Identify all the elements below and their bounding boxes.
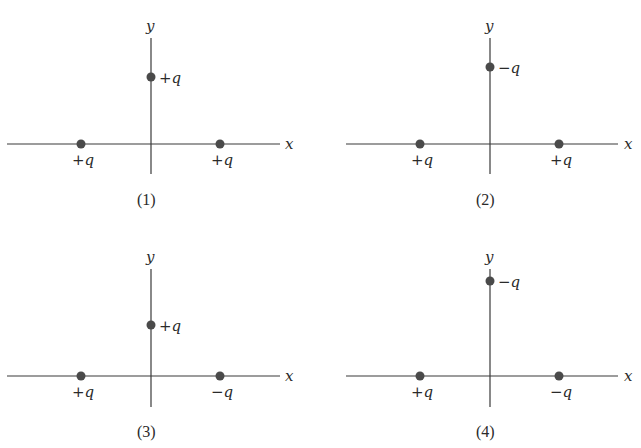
charge-top <box>147 321 156 330</box>
charge-right-label: −q <box>211 383 233 401</box>
charge-left <box>77 140 86 149</box>
panel-1: y x +q +q +q (1) <box>7 17 294 209</box>
charge-right-label: +q <box>211 151 233 169</box>
panel-caption: (4) <box>476 423 495 441</box>
charge-top-label: −q <box>498 273 520 291</box>
y-axis-label: y <box>145 17 155 35</box>
charge-right <box>216 372 225 381</box>
charge-left-label: +q <box>72 151 94 169</box>
charge-right <box>216 140 225 149</box>
charge-left-label: +q <box>72 383 94 401</box>
x-axis-label: x <box>285 135 294 153</box>
charge-right-label: −q <box>550 383 572 401</box>
charge-top-label: −q <box>498 59 520 77</box>
panel-4: y x −q +q −q (4) <box>346 248 633 441</box>
y-axis-label: y <box>484 248 494 266</box>
y-axis-label: y <box>484 17 494 35</box>
charge-configuration-figure: y x +q +q +q (1) y x −q +q +q (2) y x +q… <box>0 0 641 448</box>
charge-left-label: +q <box>411 383 433 401</box>
charge-left <box>416 140 425 149</box>
y-axis-label: y <box>145 248 155 266</box>
panel-3: y x +q +q −q (3) <box>7 248 294 441</box>
charge-top <box>486 277 495 286</box>
panel-caption: (3) <box>137 423 156 441</box>
charge-right <box>555 372 564 381</box>
panel-caption: (1) <box>137 191 156 209</box>
x-axis-label: x <box>285 367 294 385</box>
charge-top <box>147 73 156 82</box>
charge-top-label: +q <box>159 317 181 335</box>
charge-left-label: +q <box>411 151 433 169</box>
panel-caption: (2) <box>476 191 495 209</box>
charge-top-label: +q <box>159 69 181 87</box>
charge-right-label: +q <box>550 151 572 169</box>
charge-left <box>416 372 425 381</box>
panel-2: y x −q +q +q (2) <box>346 17 633 209</box>
charge-left <box>77 372 86 381</box>
charge-top <box>486 63 495 72</box>
charge-right <box>555 140 564 149</box>
x-axis-label: x <box>624 367 633 385</box>
x-axis-label: x <box>624 135 633 153</box>
